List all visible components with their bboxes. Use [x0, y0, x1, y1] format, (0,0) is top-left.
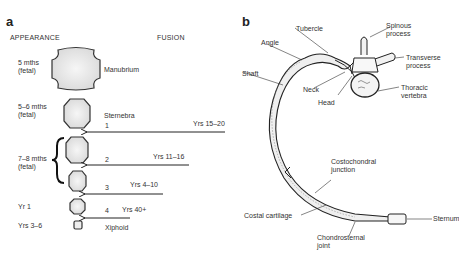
segment-sternebra-label: Sternebra [104, 112, 135, 120]
transverse-process-label: Transverse process [406, 54, 441, 70]
shaft-label: Shaft [242, 70, 258, 78]
chondrosternal-joint-label: Chondrosternal joint [317, 234, 365, 250]
thoracic-vertebra-shape [350, 37, 395, 97]
rib-shape [269, 54, 406, 224]
sternebra-4-shape [70, 199, 85, 214]
brace-bracket [52, 138, 64, 183]
segment-xiphoid-label: Xiphoid [105, 224, 128, 232]
manubrium-shape [52, 48, 100, 91]
fusion-header: FUSION [157, 34, 185, 41]
sternebra-2-shape [66, 137, 88, 163]
spinous-process-label: Spinous process [386, 22, 411, 38]
panel-a-letter: a [6, 14, 13, 29]
thoracic-vertebra-label: Thoracic vertebra [401, 84, 428, 100]
appearance-time-5: Yrs 3–6 [18, 222, 42, 230]
head-label: Head [318, 99, 335, 107]
appearance-time-4: Yr 1 [18, 203, 31, 211]
neck-label: Neck [303, 86, 319, 94]
segment-manubrium-label: Manubrium [104, 66, 139, 74]
segment-4-number: 4 [105, 207, 109, 215]
appearance-time-1: 5 mths (fetal) [18, 59, 39, 75]
appearance-time-3: 7–8 mths (fetal) [18, 155, 47, 171]
fusion-time-3: Yrs 4–10 [130, 181, 158, 189]
xiphoid-shape [74, 221, 82, 229]
costochondral-junction-label: Costochondral junction [331, 158, 376, 174]
segment-1-number: 1 [105, 122, 109, 130]
sternebra-3-shape [69, 171, 86, 191]
segment-3-number: 3 [105, 184, 109, 192]
appearance-time-2: 5–6 mths (fetal) [18, 103, 47, 119]
angle-label: Angle [261, 39, 279, 47]
segment-2-number: 2 [105, 156, 109, 164]
fusion-time-4: Yrs 40+ [122, 206, 146, 214]
fusion-time-1: Yrs 15–20 [193, 120, 225, 128]
appearance-header: APPEARANCE [10, 34, 60, 41]
panel-b-letter: b [242, 14, 250, 29]
tubercle-label: Tubercle [296, 25, 323, 33]
sternebra-1-shape [64, 99, 90, 128]
sternum-label: Sternum [433, 215, 459, 223]
costal-cartilage-label: Costal cartilage [244, 212, 292, 220]
fusion-time-2: Yrs 11–16 [153, 153, 184, 161]
